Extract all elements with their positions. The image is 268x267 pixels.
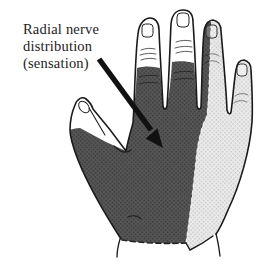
figure-radial-nerve-hand: Radial nerve distribution (sensation) — [0, 0, 268, 267]
middle-fingernail — [177, 13, 189, 27]
label-line-3: (sensation) — [23, 55, 133, 72]
pinky-fingernail — [237, 64, 247, 76]
index-fingernail — [142, 24, 153, 37]
radial-nerve-label: Radial nerve distribution (sensation) — [23, 21, 133, 72]
label-line-1: Radial nerve — [23, 21, 133, 38]
ring-fingernail — [206, 25, 217, 38]
label-line-2: distribution — [23, 38, 133, 55]
